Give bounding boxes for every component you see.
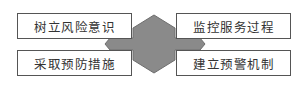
box-label: 建立预警机制: [193, 54, 274, 73]
box-top-right: 监控服务过程: [176, 13, 291, 39]
box-label: 监控服务过程: [193, 17, 274, 36]
box-bottom-left: 采取预防措施: [17, 50, 132, 76]
box-label: 采取预防措施: [34, 54, 115, 73]
box-top-left: 树立风险意识: [17, 13, 132, 39]
box-label: 树立风险意识: [34, 17, 115, 36]
box-bottom-right: 建立预警机制: [176, 50, 291, 76]
